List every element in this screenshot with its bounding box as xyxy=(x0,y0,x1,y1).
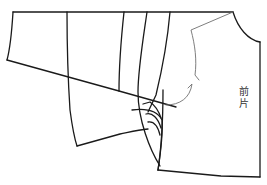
fold-line-3 xyxy=(148,122,160,135)
front-hem-edge xyxy=(158,170,260,177)
armhole-guide-lower xyxy=(166,84,192,105)
sleeve-sweep-curve xyxy=(138,12,160,166)
middle-panel-right-curve xyxy=(119,12,124,91)
sleeve-inner-curve xyxy=(148,12,170,112)
lower-panel-bottom-edge xyxy=(77,129,148,146)
front-neckline xyxy=(233,12,260,42)
left-panel-left-edge xyxy=(7,12,13,60)
front-piece-label: 前片 xyxy=(238,86,250,110)
armhole-guide-line xyxy=(191,12,233,80)
left-panel-bottom-diagonal xyxy=(7,60,176,107)
pattern-diagram xyxy=(0,0,267,185)
